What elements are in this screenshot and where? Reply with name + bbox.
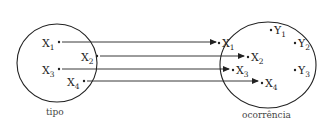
element-base: X: [42, 37, 50, 50]
svg-text:Y1: Y1: [273, 24, 286, 39]
element-base: X: [42, 64, 50, 77]
element-subscript: 2: [89, 57, 94, 66]
element-dot: [247, 56, 249, 58]
ocorrencia-caption: ocorrência: [242, 110, 292, 120]
right-element-y1: Y1: [270, 24, 286, 39]
right-element-x1: X1: [218, 37, 235, 52]
element-base: X: [222, 37, 230, 50]
element-subscript: 3: [50, 70, 55, 79]
tipo-caption: tipo: [46, 107, 64, 117]
element-dot: [96, 55, 98, 57]
svg-text:X2: X2: [81, 51, 94, 66]
element-dot: [294, 42, 296, 44]
right-element-x2: X2: [247, 51, 264, 66]
element-subscript: 1: [281, 30, 286, 39]
element-dot: [232, 69, 234, 71]
element-base: X: [236, 64, 244, 77]
svg-text:X4: X4: [265, 77, 278, 92]
left-element-x4: X4: [67, 76, 85, 91]
svg-text:X2: X2: [251, 51, 264, 66]
element-subscript: 3: [244, 70, 249, 79]
element-dot: [294, 69, 296, 71]
element-subscript: 2: [305, 43, 310, 52]
element-base: X: [265, 77, 273, 90]
element-subscript: 1: [230, 43, 235, 52]
right-element-x3: X3: [232, 64, 249, 79]
element-dot: [58, 41, 60, 43]
element-dot: [261, 82, 263, 84]
element-dot: [270, 29, 272, 31]
element-subscript: 4: [273, 83, 278, 92]
svg-text:Y3: Y3: [297, 64, 310, 79]
svg-text:X1: X1: [42, 37, 55, 52]
element-base: X: [251, 51, 259, 64]
element-base: X: [81, 51, 89, 64]
element-dot: [218, 42, 220, 44]
left-element-x1: X1: [42, 37, 60, 52]
element-dot: [83, 80, 85, 82]
element-dot: [58, 68, 60, 70]
element-subscript: 1: [50, 43, 55, 52]
svg-text:X3: X3: [236, 64, 249, 79]
left-element-x3: X3: [42, 64, 60, 79]
element-subscript: 3: [305, 70, 310, 79]
right-element-y2: Y2: [294, 37, 310, 52]
svg-text:X4: X4: [67, 76, 80, 91]
element-subscript: 2: [259, 57, 264, 66]
svg-text:X1: X1: [222, 37, 235, 52]
element-subscript: 4: [75, 82, 80, 91]
element-base: X: [67, 76, 75, 89]
svg-text:X3: X3: [42, 64, 55, 79]
set-mapping-diagram: tipo ocorrência X1 X2 X3 X4 X1 X2 X3 X4: [0, 0, 331, 125]
right-element-y3: Y3: [294, 64, 310, 79]
svg-text:Y2: Y2: [297, 37, 310, 52]
right-element-x4: X4: [261, 77, 278, 92]
